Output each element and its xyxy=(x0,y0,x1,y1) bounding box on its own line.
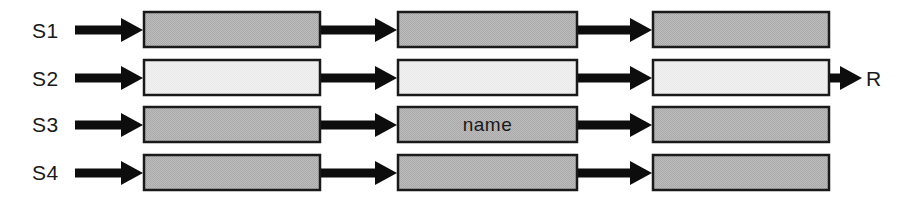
arrow-s4-b-shaft xyxy=(578,169,632,178)
arrow-s1-b-head xyxy=(630,18,652,42)
arrow-s2-b-shaft xyxy=(578,74,632,83)
pipeline-diagram: nameS1S2S3S4R xyxy=(0,0,906,205)
stage-box-shape-s1-c3 xyxy=(653,12,829,47)
stage-label-s3: S3 xyxy=(32,114,59,135)
stage-box-s1-c1[interactable] xyxy=(144,12,320,47)
arrow-s2-a-head xyxy=(375,66,397,90)
arrow-s1-b-shaft xyxy=(578,26,632,35)
arrow-s3-b-shaft xyxy=(578,121,632,130)
arrow-s3-b-head xyxy=(630,113,652,137)
arrow-s3-in-shaft xyxy=(75,121,123,130)
arrow-s1-b-icon xyxy=(578,18,652,42)
stage-box-s1-c3[interactable] xyxy=(653,12,829,47)
arrow-s4-a-head xyxy=(375,161,397,185)
stage-box-shape-s2-c2 xyxy=(398,60,577,95)
arrow-s4-in-icon xyxy=(75,161,143,185)
arrow-s4-a-icon xyxy=(321,161,397,185)
arrow-s2-b-icon xyxy=(578,66,652,90)
arrow-s2-in-shaft xyxy=(75,74,123,83)
arrow-s2-a-icon xyxy=(321,66,397,90)
arrow-s2-a-shaft xyxy=(321,74,377,83)
stage-box-s2-c2[interactable] xyxy=(398,60,577,95)
arrow-s2-out-icon xyxy=(830,66,862,90)
stage-box-s2-c3[interactable] xyxy=(653,60,829,95)
arrow-s4-b-head xyxy=(630,161,652,185)
stage-box-shape-s3-c1 xyxy=(144,107,320,142)
output-label-r: R xyxy=(866,68,881,89)
arrow-s1-a-head xyxy=(375,18,397,42)
arrow-s2-b-head xyxy=(630,66,652,90)
stage-box-s2-c1[interactable] xyxy=(144,60,320,95)
stage-box-s1-c2[interactable] xyxy=(398,12,577,47)
arrow-s1-a-shaft xyxy=(321,26,377,35)
arrow-s3-a-head xyxy=(375,113,397,137)
arrow-s3-in-head xyxy=(121,113,143,137)
stage-box-shape-s4-c3 xyxy=(653,155,829,190)
arrow-s4-b-icon xyxy=(578,161,652,185)
arrow-s3-in-icon xyxy=(75,113,143,137)
arrow-s1-in-shaft xyxy=(75,26,123,35)
stage-box-s3-c3[interactable] xyxy=(653,107,829,142)
stage-box-shape-s4-c1 xyxy=(144,155,320,190)
arrow-s3-b-icon xyxy=(578,113,652,137)
arrow-s3-a-shaft xyxy=(321,121,377,130)
stage-box-shape-s3-c3 xyxy=(653,107,829,142)
arrow-s4-a-shaft xyxy=(321,169,377,178)
diagram-canvas xyxy=(0,0,906,205)
arrow-s1-in-head xyxy=(121,18,143,42)
arrow-s4-in-shaft xyxy=(75,169,123,178)
arrow-s3-a-icon xyxy=(321,113,397,137)
stage-box-shape-s4-c2 xyxy=(398,155,577,190)
stage-boxes-group xyxy=(144,12,829,190)
stage-label-s2: S2 xyxy=(32,68,59,89)
stage-box-label-s3-c2: name xyxy=(397,115,578,134)
stage-box-s4-c2[interactable] xyxy=(398,155,577,190)
arrow-s2-in-icon xyxy=(75,66,143,90)
stage-box-shape-s2-c1 xyxy=(144,60,320,95)
stage-box-shape-s1-c1 xyxy=(144,12,320,47)
arrow-s2-out-head xyxy=(840,66,862,90)
stage-box-shape-s1-c2 xyxy=(398,12,577,47)
arrow-s2-in-head xyxy=(121,66,143,90)
stage-box-shape-s2-c3 xyxy=(653,60,829,95)
stage-label-s1: S1 xyxy=(32,20,59,41)
arrow-s4-in-head xyxy=(121,161,143,185)
stage-box-s4-c1[interactable] xyxy=(144,155,320,190)
stage-box-s3-c1[interactable] xyxy=(144,107,320,142)
arrow-s1-in-icon xyxy=(75,18,143,42)
stage-label-s4: S4 xyxy=(32,162,59,183)
arrow-s1-a-icon xyxy=(321,18,397,42)
stage-box-s4-c3[interactable] xyxy=(653,155,829,190)
